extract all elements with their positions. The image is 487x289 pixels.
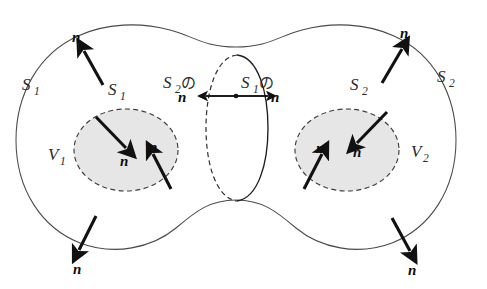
inner-s1-subscript: 1 bbox=[120, 90, 126, 102]
inner-s1-letter: S bbox=[108, 80, 117, 99]
v2-subscript: 2 bbox=[423, 152, 429, 164]
inner-s2-letter: S bbox=[350, 75, 359, 94]
n-label-outer-top-left: n bbox=[72, 29, 80, 45]
inner-region-s1 bbox=[74, 109, 178, 191]
n-label-inner-right-upper: n bbox=[353, 144, 361, 160]
n-label-inner-right-lower: n bbox=[316, 140, 324, 156]
normal-vector-diagram: S 1 S 2 S 1 S 2 V 1 V 2 S 2 の bbox=[0, 0, 487, 289]
interface-s1-normal: n bbox=[271, 89, 279, 105]
figure-root: S 1 S 2 S 1 S 2 V 1 V 2 S 2 の bbox=[0, 0, 487, 289]
interface-s2-normal: n bbox=[178, 89, 186, 105]
label-outer-s2: S 2 bbox=[437, 67, 455, 89]
v1-subscript: 1 bbox=[60, 155, 66, 167]
n-label-inner-left-upper: n bbox=[120, 153, 128, 169]
outer-s2-letter: S bbox=[437, 67, 446, 86]
interface-s1-letter: S bbox=[241, 73, 250, 92]
interface-center-dot bbox=[234, 94, 239, 99]
n-label-outer-bottom-left: n bbox=[73, 261, 81, 277]
n-label-inner-left-lower: n bbox=[149, 139, 157, 155]
outer-s1-letter: S bbox=[22, 75, 31, 94]
inner-s2-subscript: 2 bbox=[362, 85, 368, 97]
n-label-outer-bottom-right: n bbox=[408, 262, 416, 278]
outer-s2-subscript: 2 bbox=[449, 77, 455, 89]
interface-s2-letter: S bbox=[163, 73, 172, 92]
n-label-outer-top-right: n bbox=[400, 25, 408, 41]
outer-s1-subscript: 1 bbox=[34, 85, 40, 97]
interface-s1-subscript: 1 bbox=[253, 83, 259, 95]
